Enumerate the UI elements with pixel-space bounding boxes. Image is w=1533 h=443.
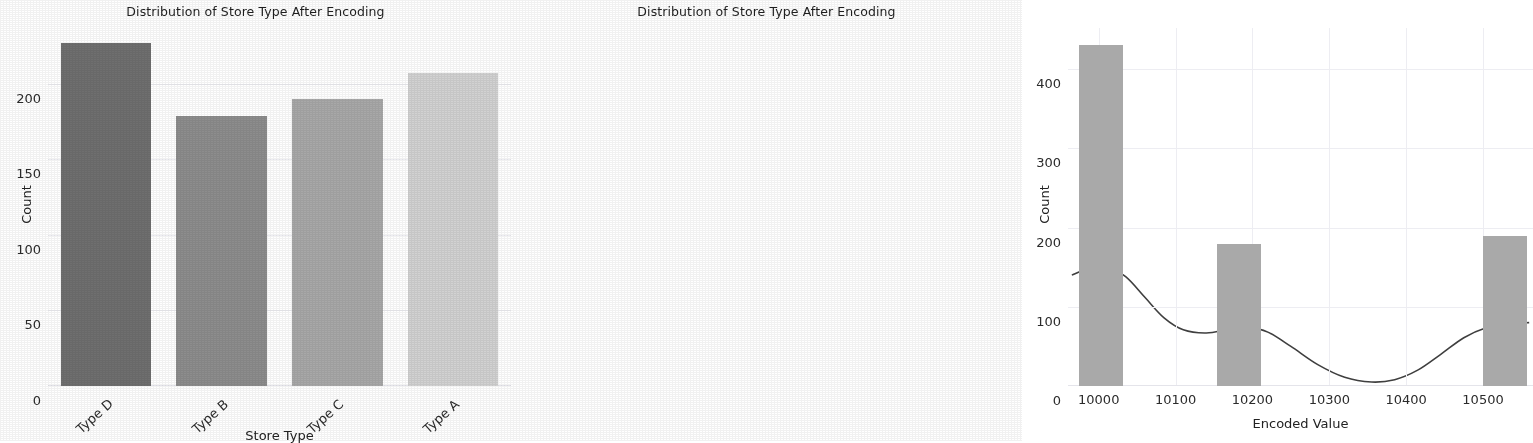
- left-y-tick-label: 0: [33, 393, 41, 408]
- histogram-chart-panel: Distribution of Store Type After Encodin…: [511, 0, 1022, 441]
- right-histogram-bar[interactable]: [1079, 45, 1123, 386]
- kde-line: [1072, 266, 1529, 383]
- right-x-axis-label: Encoded Value: [1068, 416, 1533, 431]
- left-bar-type-c[interactable]: [292, 99, 382, 386]
- left-plot-area: Count Store Type 050100150200Type DType …: [48, 28, 511, 386]
- right-y-tick-label: 200: [1036, 234, 1061, 249]
- right-gridline: [1068, 307, 1533, 308]
- left-x-axis-label: Store Type: [48, 428, 511, 443]
- right-x-tick-label: 10200: [1232, 392, 1273, 407]
- right-gridline: [1068, 148, 1533, 149]
- right-x-tick-label: 10400: [1385, 392, 1426, 407]
- right-vgridline: [1406, 28, 1407, 386]
- right-y-tick-label: 400: [1036, 76, 1061, 91]
- bar-chart-panel: Distribution of Store Type After Encodin…: [0, 0, 511, 441]
- right-histogram-bar[interactable]: [1217, 244, 1261, 386]
- left-bar-type-b[interactable]: [176, 116, 266, 386]
- right-gridline: [1068, 69, 1533, 70]
- right-vgridline: [1329, 28, 1330, 386]
- right-x-tick-label: 10000: [1078, 392, 1119, 407]
- left-y-tick-label: 150: [16, 166, 41, 181]
- right-vgridline: [1176, 28, 1177, 386]
- right-y-tick-label: 0: [1053, 393, 1061, 408]
- right-y-tick-label: 300: [1036, 155, 1061, 170]
- right-histogram-bar[interactable]: [1483, 236, 1527, 386]
- left-y-tick-label: 200: [16, 90, 41, 105]
- right-x-tick-label: 10500: [1462, 392, 1503, 407]
- left-bar-type-d[interactable]: [61, 43, 151, 386]
- left-chart-title: Distribution of Store Type After Encodin…: [0, 4, 511, 19]
- right-plot-area: Count Encoded Value 01002003004001000010…: [1068, 28, 1533, 386]
- right-gridline: [1068, 228, 1533, 229]
- left-y-tick-label: 50: [24, 317, 41, 332]
- right-chart-title: Distribution of Store Type After Encodin…: [511, 4, 1022, 19]
- left-bar-type-a[interactable]: [408, 73, 498, 386]
- kde-curve: [1068, 28, 1533, 386]
- right-x-tick-label: 10100: [1155, 392, 1196, 407]
- right-y-tick-label: 100: [1036, 313, 1061, 328]
- right-x-tick-label: 10300: [1309, 392, 1350, 407]
- right-axis-baseline: [1068, 385, 1533, 386]
- left-y-tick-label: 100: [16, 241, 41, 256]
